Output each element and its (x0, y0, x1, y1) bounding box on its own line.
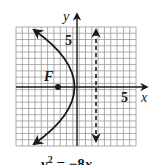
equation-rhs-var: x (85, 156, 93, 165)
focus-point (55, 84, 61, 90)
equation-exponent: 2 (48, 154, 53, 165)
focus-label: F (43, 69, 54, 84)
y-tick-label-5: 5 (65, 33, 72, 48)
equation-equals: = (56, 156, 65, 165)
x-axis-label: x (140, 90, 148, 105)
parabola-diagram: F y 5 5 x (0, 0, 154, 165)
x-tick-label-5: 5 (121, 90, 128, 105)
equation-label: y2 = −8x (41, 155, 92, 165)
equation-coefficient: −8 (69, 156, 85, 165)
equation-lhs-var: y (41, 156, 48, 165)
y-axis-label: y (61, 9, 70, 24)
